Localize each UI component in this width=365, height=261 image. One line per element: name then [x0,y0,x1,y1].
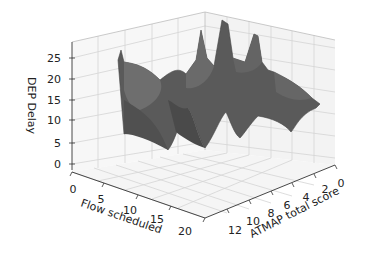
x-tick-20: 20 [178,225,192,238]
z-axis-label: DEP Delay [25,77,38,135]
z-tick-10: 10 [47,114,61,127]
z-axis: 0 5 10 15 20 25 DEP Delay [25,52,75,171]
x-tick-0: 0 [70,183,77,196]
surface-plot-3d: 0 5 10 15 20 25 DEP Delay 0 5 10 15 20 F… [0,0,365,261]
y-tick-12: 12 [228,224,242,237]
z-tick-0: 0 [54,158,61,171]
z-tick-15: 15 [47,94,61,107]
z-tick-5: 5 [54,137,61,150]
y-tick-0: 0 [338,177,345,190]
z-tick-20: 20 [47,73,61,86]
z-tick-25: 25 [47,52,61,65]
